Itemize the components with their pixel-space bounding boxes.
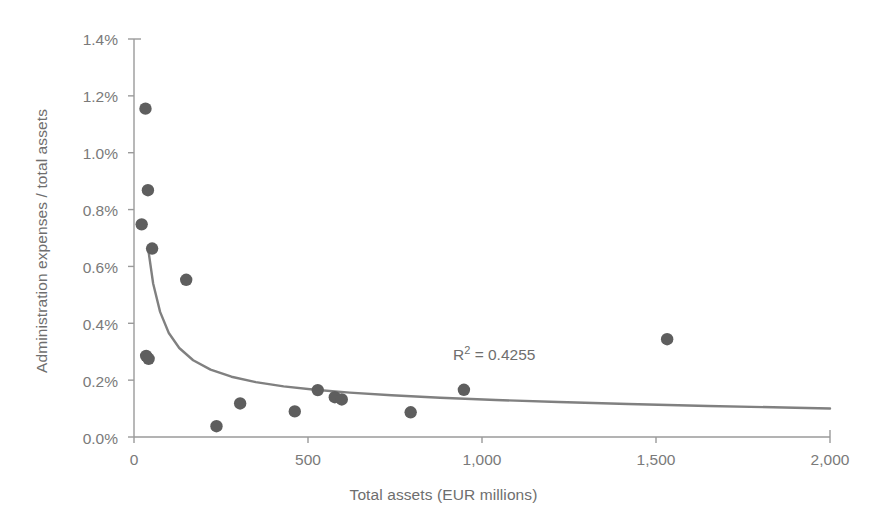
data-points [135, 102, 673, 432]
scatter-chart: Administration expenses / total assets T… [0, 0, 887, 528]
axis-lines [128, 39, 830, 443]
data-point [661, 333, 673, 345]
data-point [146, 242, 158, 254]
trendline-path [148, 247, 830, 408]
data-point [210, 420, 222, 432]
data-point [135, 218, 147, 230]
data-point [180, 274, 192, 286]
trendline [148, 247, 830, 408]
data-point [139, 102, 151, 114]
data-point [336, 393, 348, 405]
data-point [458, 384, 470, 396]
plot-area [0, 0, 887, 528]
data-point [142, 184, 154, 196]
data-point [234, 397, 246, 409]
data-point [404, 406, 416, 418]
data-point [312, 384, 324, 396]
data-point [142, 353, 154, 365]
data-point [289, 405, 301, 417]
